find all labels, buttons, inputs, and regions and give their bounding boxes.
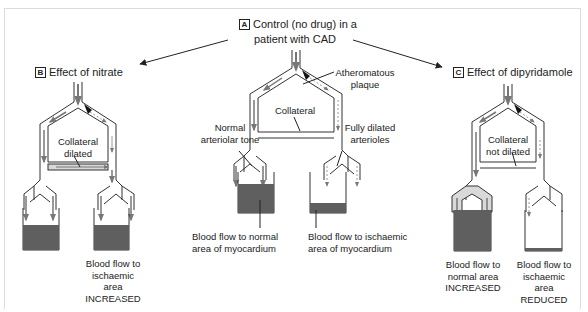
label-b-flow-line2: ischaemic	[78, 270, 148, 282]
label-flow-normal-area: Blood flow to normal area of myocardium	[192, 231, 282, 254]
label-normal-arteriolar-tone: Normal arteriolar tone	[200, 122, 260, 145]
arrow-to-c	[353, 40, 442, 67]
label-c-isch-line4: REDUCED	[508, 294, 580, 306]
label-b-flow-line4: INCREASED	[78, 293, 148, 305]
label-c-normal-line1: Blood flow to	[437, 259, 509, 271]
label-c-collateral-line2: not dilated	[480, 146, 536, 158]
label-c-isch-line1: Blood flow to	[508, 259, 580, 271]
label-b-flow-line3: area	[78, 281, 148, 293]
panel-b-title-text: Effect of nitrate	[49, 66, 123, 78]
panel-b-beaker-ischaemic	[94, 208, 129, 250]
panel-c-tag: C	[453, 67, 464, 78]
label-b-flow-ischaemic: Blood flow to ischaemic area INCREASED	[78, 258, 148, 304]
label-flow-ischaemic-area: Blood flow to ischaemic area of myocardi…	[308, 231, 408, 254]
panel-b-tag: B	[35, 67, 46, 78]
panel-c-title: CEffect of dipyridamole	[453, 66, 573, 79]
panel-a-title-line1: Control (no drug) in a	[253, 18, 357, 30]
label-c-isch-line3: area	[508, 282, 580, 294]
label-b-flow-line1: Blood flow to	[78, 258, 148, 270]
panel-b-title: BEffect of nitrate	[35, 66, 123, 79]
label-c-normal-line2: normal area	[437, 271, 509, 283]
label-c-normal-line3: INCREASED	[437, 282, 509, 294]
label-collateral-not-dilated: Collateral not dilated	[480, 134, 536, 157]
label-collateral: Collateral	[265, 105, 325, 117]
panel-a-beaker-ischaemic	[310, 172, 346, 228]
panel-c-title-text: Effect of dipyridamole	[467, 66, 573, 78]
label-atheromatous-plaque: Atheromatous plaque	[330, 67, 400, 90]
panel-a-tag: A	[239, 19, 250, 30]
panel-c-beaker-ischaemic	[525, 210, 562, 251]
label-c-flow-normal: Blood flow to normal area INCREASED	[437, 259, 509, 294]
panel-a-title: AControl (no drug) in a	[239, 18, 357, 31]
label-c-isch-line2: ischaemic	[508, 271, 580, 283]
label-fully-dilated-arterioles: Fully dilated arterioles	[340, 122, 400, 145]
panel-a-beaker-normal	[238, 172, 274, 228]
label-collateral-dilated: Collateral dilated	[50, 136, 106, 159]
label-c-collateral-line1: Collateral	[480, 134, 536, 146]
panel-a-title-line2: patient with CAD	[254, 33, 336, 46]
panel-c-beaker-normal	[454, 210, 491, 251]
arrow-to-b	[140, 40, 228, 64]
label-c-flow-ischaemic: Blood flow to ischaemic area REDUCED	[508, 259, 580, 305]
